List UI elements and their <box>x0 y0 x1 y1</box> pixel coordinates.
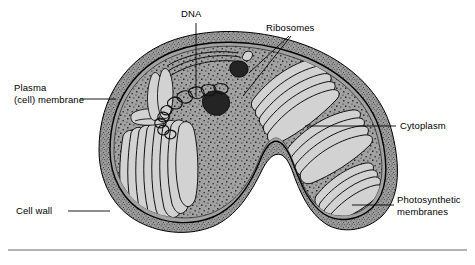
label-cytoplasm: Cytoplasm <box>400 120 446 132</box>
label-photosynthetic-line1: Photosynthetic <box>397 194 461 205</box>
label-ribosomes: Ribosomes <box>266 22 314 34</box>
label-plasma-membrane-line1: Plasma <box>14 82 46 93</box>
label-cell-wall: Cell wall <box>16 205 52 217</box>
label-dna: DNA <box>181 8 201 20</box>
granule-upper <box>230 61 248 77</box>
label-photosynthetic-line2: membranes <box>397 206 448 217</box>
label-plasma-membrane-line2: (cell) membrane <box>14 94 84 105</box>
label-photosynthetic-membranes: Photosyntheticmembranes <box>397 194 461 217</box>
cell-body <box>99 31 397 232</box>
label-plasma-membrane: Plasma(cell) membrane <box>14 82 84 105</box>
cyanobacterium-diagram <box>0 0 475 265</box>
